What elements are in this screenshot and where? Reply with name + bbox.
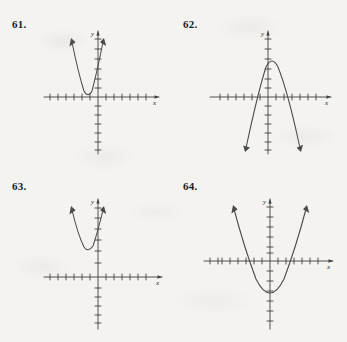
y-axis-arrowhead-64 — [268, 199, 271, 204]
x-axis-label-62: x — [324, 99, 329, 107]
graph-61: x y — [40, 26, 165, 158]
exercise-number-62: 62. — [183, 18, 197, 30]
graph-63: x y — [38, 193, 170, 333]
y-axis-arrowhead-61 — [96, 31, 99, 36]
parabola-right-arrowhead-63 — [100, 206, 106, 214]
x-axis-label-64: x — [326, 263, 331, 271]
exercise-cell-64: 64. — [174, 171, 347, 342]
parabola-right-arrowhead-64 — [303, 205, 309, 213]
exercise-cell-63: 63. — [0, 171, 174, 342]
coordinate-plane-63: x y — [38, 193, 170, 333]
y-axis-arrowhead-62 — [266, 31, 269, 36]
y-axis-label-63: y — [90, 198, 95, 206]
coordinate-plane-61: x y — [40, 26, 165, 158]
exercise-grid: 61. — [0, 0, 347, 342]
parabola-left-arrowhead-62 — [243, 146, 250, 152]
exercise-number-63: 63. — [12, 180, 26, 192]
exercise-cell-62: 62. — [174, 0, 347, 171]
y-axis-arrowhead-63 — [96, 199, 99, 204]
y-axis-label-61: y — [90, 30, 95, 38]
coordinate-plane-62: x y — [206, 26, 341, 158]
exercise-cell-61: 61. — [0, 0, 174, 171]
parabola-curve-62 — [246, 61, 300, 148]
x-axis-label-63: x — [155, 279, 160, 287]
coordinate-plane-64: x y — [190, 195, 342, 335]
exercise-number-61: 61. — [12, 18, 26, 30]
y-axis-label-62: y — [260, 30, 265, 38]
x-axis-overlay-left-64 — [204, 258, 246, 264]
y-axis-label-64: y — [262, 198, 267, 206]
graph-62: x y — [206, 26, 341, 158]
graph-64: x y — [190, 195, 342, 335]
exercise-number-64: 64. — [183, 180, 197, 192]
x-axis-label-61: x — [152, 99, 157, 107]
